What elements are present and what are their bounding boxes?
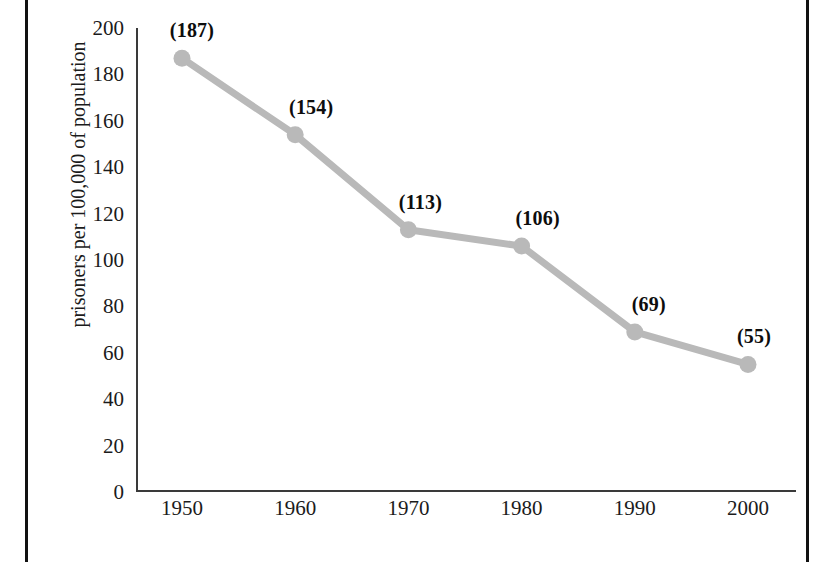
y-axis-tick-label: 140 <box>64 157 124 178</box>
y-axis-tick-label: 0 <box>64 482 124 503</box>
data-point-marker <box>740 356 757 373</box>
frame-border-right <box>806 0 809 562</box>
data-point-marker <box>287 126 304 143</box>
data-point-value-label: (113) <box>399 191 442 214</box>
chart-page: prisoners per 100,000 of population 2001… <box>0 0 836 562</box>
y-axis-tick-label: 40 <box>64 389 124 410</box>
x-axis-tick-label: 1980 <box>462 497 582 520</box>
data-point-value-label: (154) <box>289 96 333 119</box>
x-axis-tick-labels: 195019601970198019902000 <box>136 497 796 531</box>
data-point-marker <box>626 323 643 340</box>
y-axis-tick-label: 20 <box>64 435 124 456</box>
x-axis-tick-label: 1950 <box>122 497 242 520</box>
y-axis-tick-label: 120 <box>64 203 124 224</box>
y-axis-tick-label: 100 <box>64 250 124 271</box>
line-series <box>136 28 796 492</box>
x-axis-tick-label: 1960 <box>235 497 355 520</box>
y-axis-tick-label: 80 <box>64 296 124 317</box>
y-axis-tick-label: 60 <box>64 342 124 363</box>
data-point-marker <box>174 50 191 67</box>
x-axis-tick-label: 1990 <box>575 497 695 520</box>
data-point-value-label: (69) <box>632 293 666 316</box>
data-point-value-label: (106) <box>515 207 559 230</box>
data-point-value-label: (55) <box>737 325 771 348</box>
data-point-marker <box>513 238 530 255</box>
series-line <box>182 58 748 364</box>
data-point-marker <box>400 221 417 238</box>
x-axis-tick-label: 2000 <box>688 497 808 520</box>
data-point-value-label: (187) <box>170 19 214 42</box>
y-axis-tick-label: 180 <box>64 64 124 85</box>
x-axis-tick-label: 1970 <box>348 497 468 520</box>
y-axis-tick-labels: 200180160140120100806040200 <box>64 28 124 492</box>
y-axis-tick-label: 200 <box>64 18 124 39</box>
y-axis-tick-label: 160 <box>64 110 124 131</box>
frame-border-left <box>25 0 28 562</box>
plot-area: (187)(154)(113)(106)(69)(55) <box>136 28 796 492</box>
